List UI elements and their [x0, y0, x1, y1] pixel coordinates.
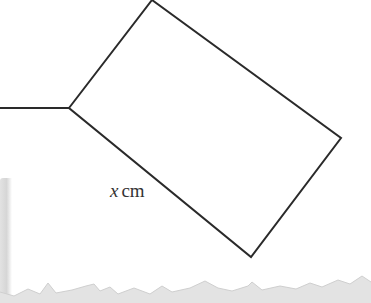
side-length-label: xcm — [110, 180, 145, 202]
side-unit: cm — [121, 180, 144, 201]
rectangle-shape — [69, 0, 341, 257]
side-variable: x — [110, 180, 118, 201]
geometry-diagram — [0, 0, 371, 303]
